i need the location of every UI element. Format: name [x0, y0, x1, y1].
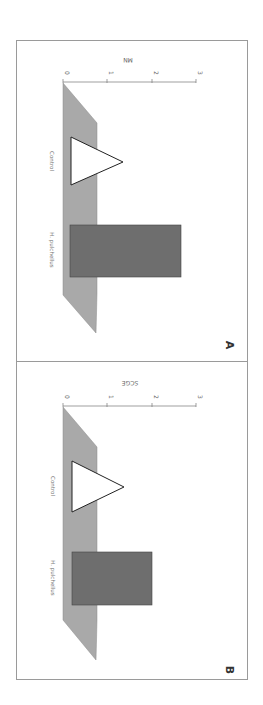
- tick-3-b: 3: [197, 395, 204, 399]
- category-h-pulchellus-b: H. pulchellus: [49, 560, 56, 595]
- tick-0-b: 0: [64, 395, 71, 399]
- panel-b: SCGE 0 1 2 3 Control H. pulchellus B: [49, 380, 236, 674]
- control-marker-b: [72, 461, 124, 512]
- category-control-b: Control: [50, 476, 56, 496]
- h-pulchellus-bar-b: [72, 552, 152, 605]
- tick-1-b: 1: [108, 395, 115, 399]
- tick-2-b: 2: [153, 395, 160, 399]
- tick-0-a: 0: [64, 71, 71, 75]
- y-axis-title-b: SCGE: [122, 380, 139, 387]
- tick-2-a: 2: [153, 71, 160, 75]
- panel-label-a: A: [223, 341, 236, 350]
- category-control-a: Control: [49, 151, 55, 171]
- panel-a: MN 0 1 2 3 Control H. pulchellus A: [48, 57, 236, 350]
- floor-plane-b: [63, 407, 97, 660]
- tick-3-a: 3: [197, 71, 204, 75]
- category-h-pulchellus-a: H. pulchellus: [48, 232, 55, 267]
- figure-svg: MN 0 1 2 3 Control H. pulchellus A SCGE …: [0, 0, 263, 705]
- h-pulchellus-bar-a: [70, 225, 181, 277]
- panel-label-b: B: [223, 666, 236, 674]
- floor-plane-a: [63, 83, 97, 333]
- tick-1-a: 1: [108, 71, 115, 75]
- y-axis-title-a: MN: [123, 57, 133, 64]
